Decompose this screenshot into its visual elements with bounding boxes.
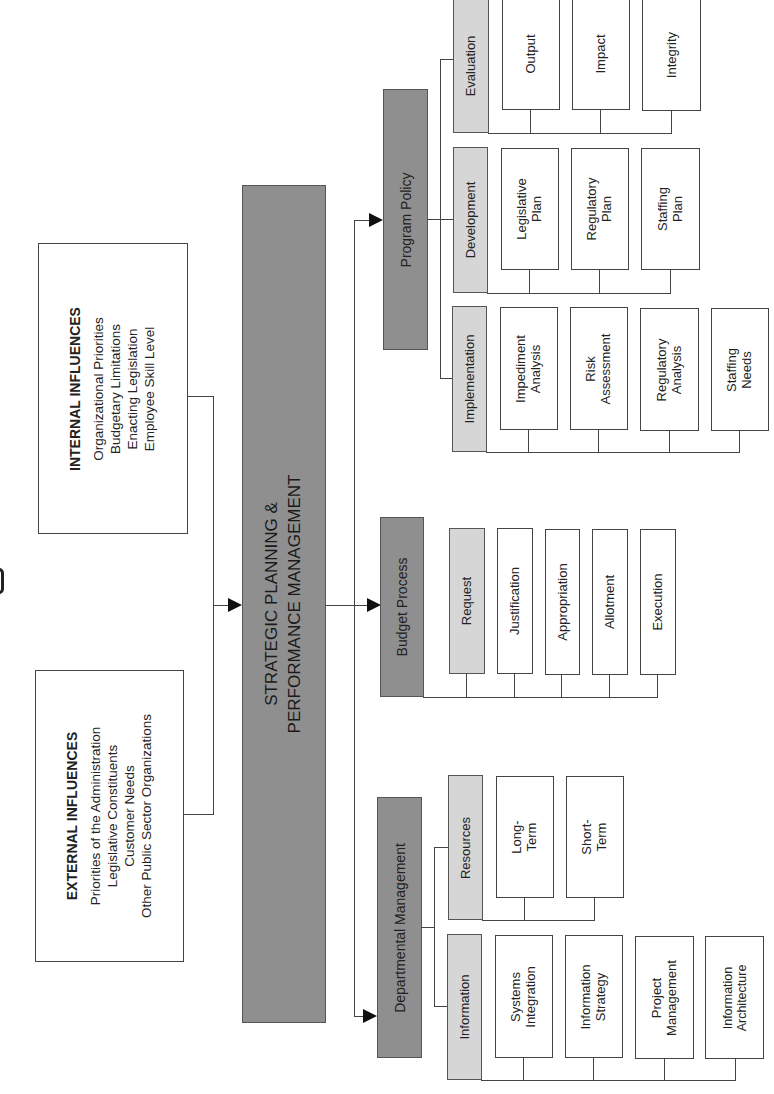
label-line: Regulatory bbox=[585, 178, 600, 241]
output-label: Output bbox=[524, 34, 539, 73]
bracket-line bbox=[561, 674, 562, 697]
bracket-line bbox=[486, 452, 740, 453]
regulatory-analysis-box: Regulatory Analysis bbox=[640, 308, 699, 431]
label-line: Assessment bbox=[599, 333, 614, 404]
bracket-line bbox=[423, 697, 657, 698]
budget-process-box: Budget Process bbox=[380, 517, 424, 697]
internal-influence-item: Budgetary Limitations bbox=[108, 307, 125, 471]
impact-label: Impact bbox=[594, 34, 609, 73]
bracket-line bbox=[529, 269, 530, 293]
internal-influences-title: INTERNAL INFLUENCES bbox=[67, 307, 83, 471]
cropped-title-fragment bbox=[0, 568, 4, 594]
resources-box: Resources bbox=[448, 775, 483, 920]
long-term-label: Long- Term bbox=[510, 820, 540, 853]
bracket-line bbox=[739, 430, 740, 452]
regulatory-analysis-label: Regulatory Analysis bbox=[655, 338, 685, 401]
label-line: Long- bbox=[510, 820, 525, 853]
label-line: Plan bbox=[600, 178, 615, 241]
label-line: Information bbox=[579, 964, 594, 1029]
allotment-label: Allotment bbox=[603, 575, 618, 629]
integrity-label: Integrity bbox=[664, 31, 679, 77]
label-line: Integration bbox=[524, 966, 539, 1027]
risk-assessment-label: Risk Assessment bbox=[584, 333, 614, 404]
staffing-plan-box: Staffing Plan bbox=[641, 148, 700, 270]
bracket-line bbox=[600, 109, 601, 133]
bracket-line bbox=[669, 430, 670, 452]
justification-label: Justification bbox=[508, 567, 523, 635]
justification-box: Justification bbox=[497, 528, 533, 674]
departmental-management-box: Departmental Management bbox=[377, 797, 422, 1058]
systems-integration-box: Systems Integration bbox=[495, 935, 553, 1058]
bracket-line bbox=[530, 109, 531, 133]
information-architecture-box: Information Architecture bbox=[705, 936, 764, 1059]
bracket-line bbox=[594, 897, 595, 921]
bracket-line bbox=[670, 269, 671, 293]
external-influences-title: EXTERNAL INFLUENCES bbox=[64, 714, 80, 918]
bracket-line bbox=[487, 293, 671, 294]
external-influence-item: Customer Needs bbox=[122, 714, 139, 918]
impediment-analysis-box: Impediment Analysis bbox=[500, 307, 558, 430]
label-line: Needs bbox=[740, 348, 755, 392]
bracket-line bbox=[514, 673, 515, 697]
impediment-analysis-label: Impediment Analysis bbox=[514, 335, 544, 403]
strategic-planning-label: STRATEGIC PLANNING & PERFORMANCE MANAGEM… bbox=[261, 475, 307, 734]
connector-line bbox=[354, 605, 368, 606]
label-line: Regulatory bbox=[655, 338, 670, 401]
bracket-line bbox=[735, 1058, 736, 1081]
bracket-line bbox=[523, 1057, 524, 1080]
integrity-box: Integrity bbox=[642, 0, 701, 111]
staffing-needs-box: Staffing Needs bbox=[711, 308, 769, 431]
output-box: Output bbox=[502, 0, 560, 110]
connector-line bbox=[326, 605, 355, 606]
execution-label: Execution bbox=[651, 573, 666, 630]
internal-influences-box: INTERNAL INFLUENCES Organizational Prior… bbox=[38, 243, 188, 534]
strategic-planning-box: STRATEGIC PLANNING & PERFORMANCE MANAGEM… bbox=[242, 185, 326, 1023]
connector-line bbox=[187, 396, 214, 397]
project-management-label: Project Management bbox=[650, 960, 680, 1036]
bracket-line bbox=[481, 1080, 736, 1081]
resources-label: Resources bbox=[458, 816, 473, 878]
label-line: Analysis bbox=[670, 338, 685, 401]
label-line: Analysis bbox=[529, 335, 544, 403]
label-line: Strategy bbox=[594, 964, 609, 1029]
label-line: Legislative bbox=[515, 178, 530, 239]
connector-line bbox=[213, 605, 229, 606]
development-box: Development bbox=[453, 147, 488, 293]
bracket-line bbox=[598, 429, 599, 452]
arrow-right-icon bbox=[363, 1009, 377, 1023]
bracket-line bbox=[671, 110, 672, 134]
label-line: Impediment bbox=[514, 335, 529, 403]
project-management-box: Project Management bbox=[635, 936, 694, 1059]
bracket-line bbox=[609, 674, 610, 697]
risk-assessment-box: Risk Assessment bbox=[570, 307, 628, 430]
short-term-label: Short- Term bbox=[580, 819, 610, 854]
bracket-line bbox=[593, 1057, 594, 1080]
external-influence-item: Legislative Constituents bbox=[105, 714, 122, 918]
bracket-line bbox=[466, 673, 467, 697]
connector-line bbox=[421, 927, 435, 928]
long-term-box: Long- Term bbox=[496, 776, 554, 898]
information-strategy-label: Information Strategy bbox=[579, 964, 609, 1029]
internal-influences-content: INTERNAL INFLUENCES Organizational Prior… bbox=[67, 307, 159, 471]
evaluation-label: Evaluation bbox=[464, 35, 479, 96]
label-line: Plan bbox=[530, 178, 545, 239]
internal-influence-item: Enacting Legislation bbox=[125, 307, 142, 471]
connector-line bbox=[434, 847, 435, 1007]
request-box: Request bbox=[449, 528, 485, 674]
legislative-plan-box: Legislative Plan bbox=[501, 148, 559, 270]
appropriation-label: Appropriation bbox=[555, 563, 570, 640]
development-label: Development bbox=[463, 182, 478, 259]
appropriation-box: Appropriation bbox=[545, 529, 580, 675]
bracket-line bbox=[664, 1058, 665, 1081]
implementation-box: Implementation bbox=[452, 306, 487, 452]
execution-box: Execution bbox=[640, 529, 676, 675]
center-title-line: STRATEGIC PLANNING & bbox=[261, 475, 284, 734]
label-line: Term bbox=[595, 819, 610, 854]
connector-line bbox=[440, 59, 453, 60]
external-influence-item: Priorities of the Administration bbox=[88, 714, 105, 918]
staffing-needs-label: Staffing Needs bbox=[725, 348, 755, 392]
program-policy-label: Program Policy bbox=[397, 172, 413, 267]
bracket-line bbox=[657, 674, 658, 698]
information-box: Information bbox=[447, 934, 482, 1080]
label-line: Staffing bbox=[656, 187, 671, 231]
